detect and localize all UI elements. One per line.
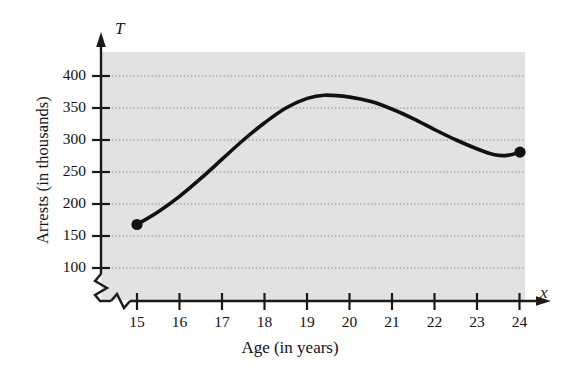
x-tick-label-21: 21 [377, 313, 407, 331]
x-tick-label-16: 16 [165, 313, 195, 331]
plot-area-background [101, 52, 525, 300]
x-axis-name-label: x [540, 283, 548, 303]
y-tick-label-350: 350 [40, 98, 86, 116]
x-tick-label-19: 19 [292, 313, 322, 331]
x-tick-label-18: 18 [250, 313, 280, 331]
y-tick-label-400: 400 [40, 66, 86, 84]
y-axis-arrowhead [96, 32, 106, 47]
x-tick-label-17: 17 [207, 313, 237, 331]
endpoint-marker-end [514, 147, 525, 158]
x-tick-label-24: 24 [505, 313, 535, 331]
y-tick-label-300: 300 [40, 130, 86, 148]
y-tick-label-200: 200 [40, 194, 86, 212]
x-tick-label-23: 23 [462, 313, 492, 331]
y-tick-label-250: 250 [40, 162, 86, 180]
x-tick-label-15: 15 [122, 313, 152, 331]
y-axis-name-label: T [115, 19, 124, 39]
x-tick-label-22: 22 [420, 313, 450, 331]
y-tick-label-150: 150 [40, 226, 86, 244]
x-axis-title: Age (in years) [190, 338, 390, 358]
x-tick-label-20: 20 [335, 313, 365, 331]
endpoint-marker-start [131, 219, 142, 230]
y-tick-label-100: 100 [40, 258, 86, 276]
